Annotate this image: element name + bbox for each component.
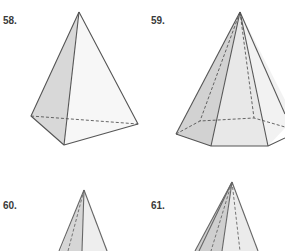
figure-61-pyramid [195,182,258,251]
figure-59-hexagonal-pyramid [176,12,285,146]
figure-60-pyramid [59,190,108,251]
figures-canvas [0,0,285,251]
figure-58-triangular-pyramid [31,12,138,145]
